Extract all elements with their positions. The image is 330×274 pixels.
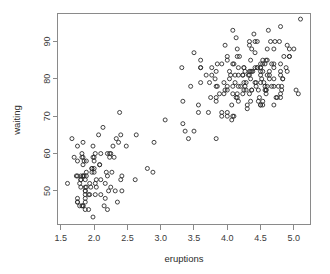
x-tick-label: 3.0 — [154, 233, 167, 243]
x-tick-label: 2.5 — [121, 233, 134, 243]
y-tick-label: 90 — [43, 37, 53, 47]
x-tick-label: 2.0 — [88, 233, 101, 243]
y-tick-label: 80 — [43, 74, 53, 84]
y-tick-label: 70 — [43, 111, 53, 121]
plot-window: 1.52.02.53.03.54.04.55.0 5060708090 erup… — [0, 0, 330, 274]
x-tick-label: 4.0 — [221, 233, 234, 243]
x-axis-title: eruptions — [164, 253, 203, 264]
x-tick-label: 1.5 — [55, 233, 68, 243]
y-tick-label: 50 — [43, 186, 53, 196]
x-tick-label: 4.5 — [254, 233, 267, 243]
x-tick-label: 5.0 — [288, 233, 301, 243]
scatter-plot: 1.52.02.53.03.54.04.55.0 5060708090 erup… — [0, 0, 330, 274]
y-axis-title: waiting — [11, 105, 22, 136]
x-tick-label: 3.5 — [188, 233, 201, 243]
y-tick-label: 60 — [43, 149, 53, 159]
